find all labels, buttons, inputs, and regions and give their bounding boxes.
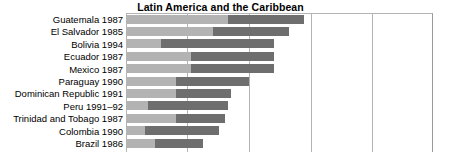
y-axis-label: Guatemala 1987 [0,14,123,25]
y-axis-label: Brazil 1986 [0,138,123,149]
chart-container: Latin America and the Caribbean Guatemal… [0,0,451,152]
bars-layer [127,13,433,152]
y-axis-labels: Guatemala 1987El Salvador 1985Bolivia 19… [0,13,123,152]
bar-segment [228,15,305,24]
bar-segment [127,126,145,135]
y-axis-label: Trinidad and Tobago 1987 [0,113,123,124]
bar-segment [176,114,225,123]
bar-segment [148,101,228,110]
bar-segment [127,39,161,48]
bar-segment [127,89,176,98]
bar-segment [127,101,148,110]
bar-segment [127,64,191,73]
y-axis-label: Bolivia 1994 [0,39,123,50]
bar-segment [161,39,274,48]
y-axis-label: Mexico 1987 [0,64,123,75]
bar-segment [127,52,191,61]
bar-segment [127,27,213,36]
bar-segment [191,52,274,61]
y-axis-label: Dominican Republic 1991 [0,88,123,99]
bar-segment [176,77,249,86]
y-axis-label: El Salvador 1985 [0,26,123,37]
bar-segment [155,139,204,148]
bar-segment [176,89,231,98]
y-axis-label: Paraguay 1990 [0,76,123,87]
bar-segment [127,139,155,148]
chart-title: Latin America and the Caribbean [0,1,441,13]
bar-segment [145,126,218,135]
bar-segment [191,64,274,73]
bar-segment [127,77,176,86]
y-axis-label: Colombia 1990 [0,126,123,137]
bar-segment [127,114,176,123]
y-axis-label: Peru 1991–92 [0,101,123,112]
bar-segment [213,27,290,36]
y-axis-label: Ecuador 1987 [0,51,123,62]
bar-segment [127,15,228,24]
